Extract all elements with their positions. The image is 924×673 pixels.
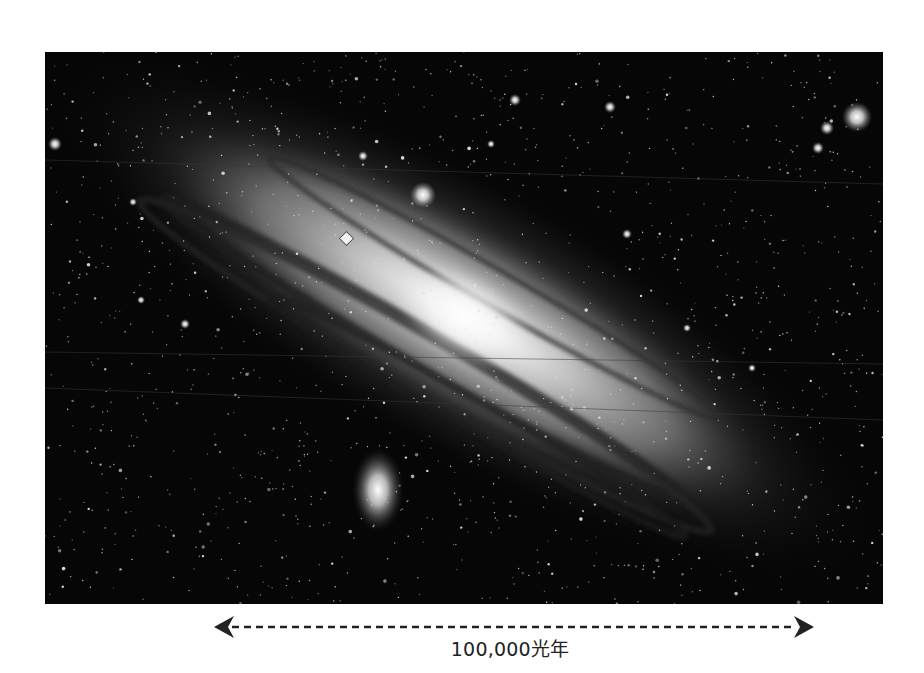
galaxy-photograph <box>45 52 883 604</box>
scale-bar-label: 100,000光年 <box>0 634 924 661</box>
galaxy-image <box>45 52 883 604</box>
